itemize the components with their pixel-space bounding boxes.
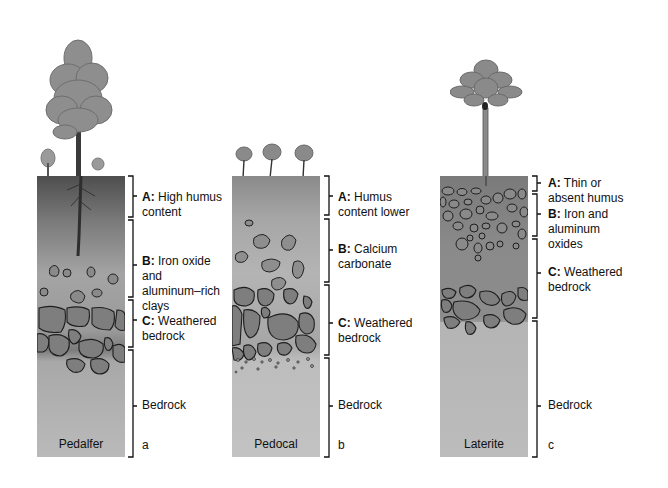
horizon-key: A:: [548, 176, 561, 190]
horizon-brackets-pedocal: [320, 174, 334, 460]
soil-type-label: Laterite: [440, 437, 528, 451]
horizon-key: C:: [338, 316, 351, 330]
horizon-c-label-pedocal: C: Weathered bedrock: [338, 316, 413, 346]
horizon-key: A:: [338, 190, 351, 204]
bedrock-label-pedocal: Bedrock: [338, 398, 382, 413]
horizon-key: B:: [142, 254, 155, 268]
horizon-b-label-laterite: B: Iron and aluminum oxides: [548, 207, 608, 252]
soil-profile-laterite: Laterite: [440, 176, 528, 457]
soil-type-label: Pedalfer: [37, 437, 125, 451]
horizon-b-label-pedalfer: B: Iron oxide and aluminum–rich clays: [142, 254, 220, 314]
horizon-b-label-pedocal: B: Calcium carbonate: [338, 242, 397, 272]
soil-type-label: Pedocal: [232, 437, 320, 451]
horizon-c-label-laterite: C: Weathered bedrock: [548, 265, 623, 295]
soil-layers-laterite: [440, 176, 528, 457]
panel-letter-c: c: [548, 438, 554, 452]
horizon-key: C:: [548, 265, 561, 279]
soil-profile-pedalfer: Pedalfer: [37, 176, 125, 457]
small-shrubs-illustration: [232, 142, 322, 178]
soil-layers-pedalfer: [37, 176, 125, 457]
horizon-key: B:: [548, 207, 561, 221]
horizon-brackets-pedalfer: [124, 174, 138, 460]
horizon-brackets-laterite: [528, 174, 542, 460]
palm-tree-illustration: [450, 58, 530, 178]
panel-letter-a: a: [142, 438, 149, 452]
deciduous-tree-illustration: [20, 28, 140, 178]
horizon-a-label-pedalfer: A: High humus content: [142, 190, 222, 220]
bedrock-label-pedalfer: Bedrock: [142, 398, 186, 413]
horizon-key: C:: [142, 314, 155, 328]
horizon-key: A:: [142, 190, 155, 204]
horizon-key: B:: [338, 242, 351, 256]
soil-profile-pedocal: Pedocal: [232, 176, 320, 457]
horizon-a-label-laterite: A: Thin or absent humus: [548, 176, 623, 206]
bedrock-label-laterite: Bedrock: [548, 398, 592, 413]
soil-layers-pedocal: [232, 176, 320, 457]
horizon-a-label-pedocal: A: Humus content lower: [338, 190, 409, 220]
panel-letter-b: b: [338, 438, 345, 452]
horizon-c-label-pedalfer: C: Weathered bedrock: [142, 314, 217, 344]
